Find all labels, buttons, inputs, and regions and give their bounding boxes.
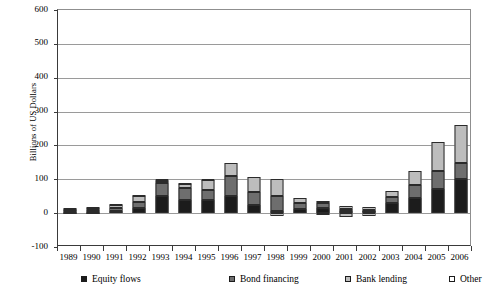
bar-column[interactable] — [426, 10, 449, 245]
plot-area — [57, 9, 471, 246]
bar-segment-bank-negative[interactable] — [362, 213, 375, 215]
bar-segment-bond[interactable] — [385, 197, 398, 204]
bar-segment-bond[interactable] — [431, 171, 444, 189]
bar-segment-bank-negative[interactable] — [339, 213, 352, 217]
stacked-bar[interactable] — [431, 10, 444, 247]
bar-segment-bond[interactable] — [316, 203, 329, 208]
bar-segment-equity[interactable] — [109, 211, 122, 213]
bar-segment-other[interactable] — [109, 204, 122, 206]
bar-segment-bank[interactable] — [454, 125, 467, 163]
bar-segment-bank-negative[interactable] — [316, 213, 329, 215]
bar-segment-bank[interactable] — [339, 206, 352, 209]
bar-segment-bank[interactable] — [293, 198, 306, 203]
bar-segment-bond[interactable] — [86, 210, 99, 212]
bar-column[interactable] — [403, 10, 426, 245]
bar-segment-equity[interactable] — [408, 198, 421, 213]
bar-segment-bank[interactable] — [431, 142, 444, 171]
bar-segment-other[interactable] — [201, 179, 214, 181]
bar-segment-bond[interactable] — [293, 203, 306, 209]
bar-segment-bond[interactable] — [408, 185, 421, 199]
bar-segment-bond[interactable] — [454, 163, 467, 179]
bar-column[interactable] — [311, 10, 334, 245]
bar-column[interactable] — [173, 10, 196, 245]
stacked-bar[interactable] — [247, 10, 260, 247]
stacked-bar[interactable] — [86, 10, 99, 247]
bar-segment-bank[interactable] — [408, 171, 421, 184]
bar-segment-bond[interactable] — [339, 209, 352, 211]
bar-segment-other[interactable] — [86, 207, 99, 209]
bar-segment-equity[interactable] — [155, 196, 168, 214]
bar-segment-bond[interactable] — [224, 176, 237, 196]
bar-segment-bond[interactable] — [362, 210, 375, 212]
bar-column[interactable] — [196, 10, 219, 245]
bar-column[interactable] — [127, 10, 150, 245]
stacked-bar[interactable] — [63, 10, 76, 247]
stacked-bar[interactable] — [339, 10, 352, 247]
stacked-bar[interactable] — [155, 10, 168, 247]
bar-segment-bank[interactable] — [270, 179, 283, 196]
bar-segment-equity[interactable] — [224, 196, 237, 214]
bar-segment-bond[interactable] — [201, 190, 214, 200]
bar-column[interactable] — [449, 10, 472, 245]
bar-segment-bond[interactable] — [178, 188, 191, 201]
stacked-bar[interactable] — [385, 10, 398, 247]
bar-segment-bond[interactable] — [132, 202, 145, 209]
stacked-bar[interactable] — [201, 10, 214, 247]
bar-segment-bank[interactable] — [362, 207, 375, 210]
stacked-bar[interactable] — [109, 10, 122, 247]
bar-column[interactable] — [380, 10, 403, 245]
stacked-bar[interactable] — [454, 10, 467, 247]
bar-column[interactable] — [265, 10, 288, 245]
bar-column[interactable] — [81, 10, 104, 245]
chart-legend: Equity flowsBond financingBank lendingOt… — [57, 272, 471, 288]
bar-segment-bond[interactable] — [109, 208, 122, 211]
bar-segment-equity[interactable] — [201, 200, 214, 213]
bar-segment-equity[interactable] — [178, 200, 191, 213]
legend-item-bank[interactable]: Bank lending — [345, 272, 407, 286]
bar-column[interactable] — [357, 10, 380, 245]
stacked-bar[interactable] — [132, 10, 145, 247]
bar-column[interactable] — [104, 10, 127, 245]
bar-segment-bank[interactable] — [247, 177, 260, 192]
bar-segment-bond[interactable] — [247, 192, 260, 205]
x-tick-mark — [310, 246, 311, 251]
bar-segment-equity[interactable] — [132, 208, 145, 213]
bar-column[interactable] — [58, 10, 81, 245]
legend-item-equity[interactable]: Equity flows — [81, 272, 141, 286]
bar-segment-other[interactable] — [132, 195, 145, 197]
bar-segment-bond[interactable] — [155, 183, 168, 195]
bar-column[interactable] — [219, 10, 242, 245]
x-tick-mark — [425, 246, 426, 251]
legend-item-other[interactable]: Other — [449, 272, 482, 286]
bar-segment-bank-negative[interactable] — [270, 213, 283, 216]
legend-item-bond[interactable]: Bond financing — [229, 272, 299, 286]
bar-segment-bank[interactable] — [316, 201, 329, 203]
bar-column[interactable] — [288, 10, 311, 245]
bar-segment-bank[interactable] — [224, 163, 237, 176]
bar-segment-other[interactable] — [155, 179, 168, 181]
bar-segment-equity[interactable] — [247, 205, 260, 213]
stacked-bar[interactable] — [362, 10, 375, 247]
bar-segment-equity[interactable] — [63, 212, 76, 214]
bar-segment-equity[interactable] — [454, 179, 467, 213]
bar-segment-equity[interactable] — [86, 212, 99, 214]
bar-segment-bond[interactable] — [270, 196, 283, 212]
stacked-bar[interactable] — [270, 10, 283, 247]
bar-segment-equity[interactable] — [431, 189, 444, 213]
bar-segment-bank[interactable] — [201, 180, 214, 190]
stacked-bar[interactable] — [316, 10, 329, 247]
bar-segment-other[interactable] — [178, 183, 191, 185]
x-tick-mark — [333, 246, 334, 251]
stacked-bar[interactable] — [293, 10, 306, 247]
bar-segment-bank[interactable] — [385, 191, 398, 197]
stacked-bar[interactable] — [224, 10, 237, 247]
stacked-bar[interactable] — [178, 10, 191, 247]
bar-column[interactable] — [242, 10, 265, 245]
stacked-bar[interactable] — [408, 10, 421, 247]
bar-column[interactable] — [334, 10, 357, 245]
bar-segment-equity[interactable] — [385, 203, 398, 213]
bar-segment-other[interactable] — [63, 208, 76, 210]
x-tick-mark — [379, 246, 380, 251]
bar-column[interactable] — [150, 10, 173, 245]
bar-segment-equity[interactable] — [293, 209, 306, 213]
